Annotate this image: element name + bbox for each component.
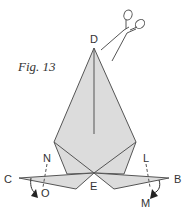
point-label-b: B (174, 173, 181, 185)
point-label-n: N (43, 152, 51, 164)
point-label-e: E (90, 180, 97, 192)
fold-line-lm (146, 164, 150, 187)
right-flap (94, 173, 169, 189)
point-label-o: O (41, 187, 50, 199)
point-label-m: M (141, 197, 150, 209)
point-label-l: L (143, 152, 149, 164)
kite-body (54, 48, 136, 174)
figure-caption: Fig. 13 (17, 59, 56, 74)
fold-arrow-right-icon (150, 180, 160, 199)
origami-diagram: Fig. 13 D C B E N O L M (0, 0, 193, 222)
point-label-d: D (90, 33, 98, 45)
point-label-c: C (4, 173, 12, 185)
scissors-icon (101, 9, 146, 61)
